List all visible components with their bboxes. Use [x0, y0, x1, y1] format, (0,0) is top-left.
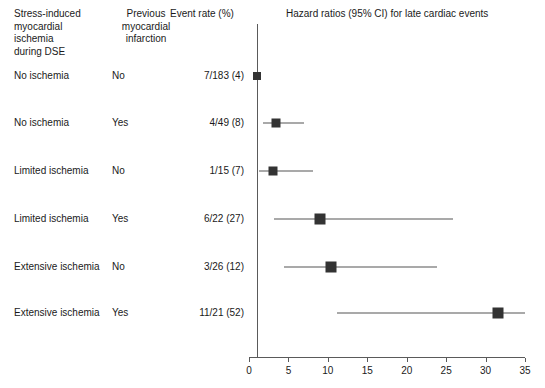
confidence-interval-whisker [284, 267, 437, 268]
x-axis-tick-label: 35 [519, 365, 530, 376]
x-axis-tick [328, 358, 329, 362]
x-axis-tick [407, 358, 408, 362]
x-axis-tick [288, 358, 289, 362]
x-axis-tick [367, 358, 368, 362]
x-axis-line [249, 357, 525, 358]
x-axis-tick-label: 15 [362, 365, 373, 376]
x-axis-tick [446, 358, 447, 362]
confidence-interval-whisker [263, 123, 304, 124]
point-estimate-marker [314, 214, 325, 225]
x-axis-tick-label: 0 [246, 365, 252, 376]
point-estimate-marker [268, 167, 277, 176]
x-axis-tick-label: 25 [441, 365, 452, 376]
x-axis-tick-label: 30 [480, 365, 491, 376]
x-axis-tick-label: 5 [286, 365, 292, 376]
x-axis-tick [486, 358, 487, 362]
point-estimate-marker [326, 262, 337, 273]
point-estimate-marker [253, 72, 261, 80]
point-estimate-marker [271, 119, 280, 128]
x-axis-tick-label: 20 [401, 365, 412, 376]
point-estimate-marker [493, 308, 504, 319]
confidence-interval-whisker [274, 219, 453, 220]
x-axis-tick [525, 358, 526, 362]
x-axis-tick [249, 358, 250, 362]
x-axis-tick-label: 10 [322, 365, 333, 376]
plot-area: 05101520253035 [0, 0, 545, 388]
forest-plot-figure: Stress-induced myocardial ischemia durin… [0, 0, 545, 388]
